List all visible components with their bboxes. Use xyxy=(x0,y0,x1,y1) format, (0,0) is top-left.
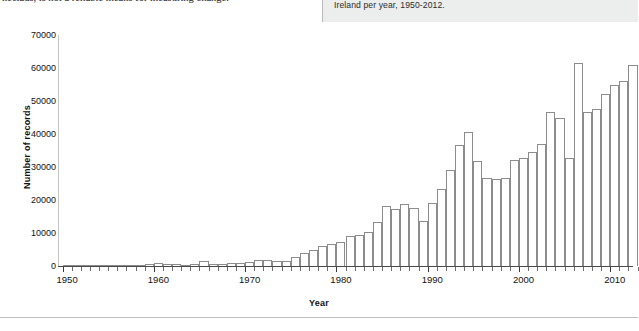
x-tick-minor xyxy=(574,267,575,271)
x-tick-major xyxy=(519,267,520,272)
x-tick-minor xyxy=(199,267,200,271)
y-tick-label: 40000 xyxy=(4,130,56,139)
x-tick-major xyxy=(336,267,337,272)
y-tick-label: 60000 xyxy=(4,64,56,73)
bar xyxy=(355,235,364,266)
bar xyxy=(455,145,464,266)
x-tick-minor xyxy=(638,267,639,271)
bar xyxy=(309,250,318,267)
x-tick-minor xyxy=(218,267,219,271)
x-tick-minor xyxy=(145,267,146,271)
y-tick-label: 10000 xyxy=(4,229,56,238)
y-axis-tick-labels: 010000200003000040000500006000070000 xyxy=(0,22,56,287)
x-tick-label: 1950 xyxy=(44,274,90,285)
x-tick-minor xyxy=(537,267,538,271)
bar xyxy=(528,152,537,266)
bar xyxy=(519,158,528,266)
bar xyxy=(318,246,327,266)
x-tick-label: 1990 xyxy=(409,274,455,285)
x-tick-minor xyxy=(282,267,283,271)
x-tick-minor xyxy=(464,267,465,271)
bar xyxy=(628,65,637,266)
y-tick-label: 30000 xyxy=(4,163,56,172)
bar xyxy=(537,144,546,266)
x-axis-title: Year xyxy=(0,298,638,308)
x-tick-minor xyxy=(236,267,237,271)
x-tick-minor xyxy=(364,267,365,271)
bar xyxy=(382,206,391,266)
x-tick-minor xyxy=(555,267,556,271)
x-tick-minor xyxy=(619,267,620,271)
x-tick-minor xyxy=(300,267,301,271)
x-tick-major xyxy=(154,267,155,272)
x-tick-minor xyxy=(473,267,474,271)
x-tick-minor xyxy=(419,267,420,271)
figure-caption-text: Ireland per year, 1950-2012. xyxy=(334,0,445,10)
bar xyxy=(437,189,446,266)
bar xyxy=(300,253,309,266)
x-tick-minor xyxy=(227,267,228,271)
bar xyxy=(391,209,400,266)
x-tick-label: 2010 xyxy=(592,274,638,285)
x-tick-major xyxy=(245,267,246,272)
bar xyxy=(473,161,482,266)
x-tick-label: 1980 xyxy=(318,274,364,285)
bar xyxy=(565,158,574,266)
x-tick-minor xyxy=(492,267,493,271)
x-tick-major xyxy=(428,267,429,272)
x-tick-minor xyxy=(546,267,547,271)
bar xyxy=(610,85,619,267)
bar xyxy=(346,236,355,266)
bar xyxy=(619,81,628,266)
x-tick-minor xyxy=(163,267,164,271)
x-tick-minor xyxy=(99,267,100,271)
x-tick-minor xyxy=(437,267,438,271)
bar xyxy=(291,257,300,266)
bar xyxy=(501,178,510,266)
bar xyxy=(327,244,336,266)
bar xyxy=(583,112,592,266)
panel-divider xyxy=(322,0,323,22)
x-tick-label: 1960 xyxy=(135,274,181,285)
x-tick-minor xyxy=(455,267,456,271)
x-tick-minor xyxy=(318,267,319,271)
document-left-column: hectads, is not a reliable means for mea… xyxy=(0,0,318,23)
x-tick-minor xyxy=(346,267,347,271)
x-tick-minor xyxy=(172,267,173,271)
x-tick-minor xyxy=(510,267,511,271)
bar xyxy=(574,63,583,266)
x-tick-minor xyxy=(108,267,109,271)
x-tick-label: 2000 xyxy=(500,274,546,285)
x-tick-minor xyxy=(291,267,292,271)
bar xyxy=(555,118,564,266)
x-axis-tick-labels: 1950196019701980199020002010 xyxy=(0,274,638,288)
bar xyxy=(601,94,610,266)
x-tick-minor xyxy=(81,267,82,271)
bar xyxy=(464,132,473,266)
bar xyxy=(492,179,501,266)
x-tick-minor xyxy=(355,267,356,271)
x-tick-minor xyxy=(272,267,273,271)
y-tick-label: 0 xyxy=(4,262,56,271)
x-tick-minor xyxy=(565,267,566,271)
x-tick-minor xyxy=(382,267,383,271)
bar xyxy=(336,242,345,266)
x-tick-minor xyxy=(601,267,602,271)
x-tick-minor xyxy=(446,267,447,271)
bottom-horizontal-rule xyxy=(0,317,638,318)
x-tick-minor xyxy=(583,267,584,271)
y-tick-label: 20000 xyxy=(4,196,56,205)
x-tick-minor xyxy=(90,267,91,271)
plot-area xyxy=(58,35,633,266)
document-top-strip: hectads, is not a reliable means for mea… xyxy=(0,0,638,22)
x-tick-minor xyxy=(126,267,127,271)
x-axis-ticks xyxy=(58,267,633,272)
x-tick-minor xyxy=(592,267,593,271)
bar xyxy=(592,109,601,266)
x-tick-minor xyxy=(327,267,328,271)
bar xyxy=(400,204,409,266)
bar xyxy=(510,160,519,266)
x-tick-minor xyxy=(373,267,374,271)
x-tick-minor xyxy=(400,267,401,271)
bar xyxy=(364,232,373,266)
